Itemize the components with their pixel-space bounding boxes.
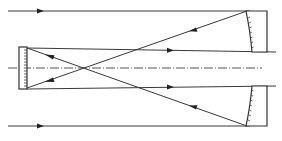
arrow-icon <box>37 124 44 129</box>
secondary-mirror <box>19 47 27 89</box>
telescope-ray-diagram <box>0 0 282 141</box>
arrow-icon <box>189 105 198 109</box>
arrow-icon <box>167 48 174 53</box>
arrow-icon <box>189 27 198 31</box>
primary-mirror-lower <box>246 86 267 126</box>
returning-ray-top <box>27 48 276 52</box>
returning-ray-bottom <box>27 86 276 89</box>
arrow-icon <box>37 9 44 14</box>
arrow-icon <box>45 78 55 82</box>
arrow-icon <box>45 54 55 59</box>
primary-mirror-upper <box>246 11 267 52</box>
arrow-icon <box>167 85 174 90</box>
